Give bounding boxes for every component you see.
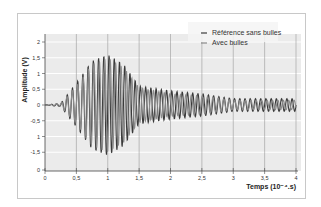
y-tick-label: 0,5 bbox=[32, 86, 40, 92]
legend-label-bubbles: Avec bulles bbox=[212, 39, 248, 46]
x-tick-label: 0 bbox=[43, 175, 46, 181]
y-tick-label: 0 bbox=[37, 102, 40, 108]
y-tick-label: 1,5 bbox=[32, 55, 40, 61]
y-tick-label: -1,5 bbox=[31, 149, 40, 155]
y-tick-label: 0 bbox=[37, 167, 40, 173]
x-tick-label: 0,5 bbox=[73, 175, 81, 181]
y-tick-label: 2 bbox=[37, 39, 40, 45]
y-tick-label: -0,5 bbox=[31, 118, 40, 124]
x-tick-label: 1 bbox=[106, 175, 109, 181]
x-axis-title: Temps (10⁻⁴.s) bbox=[246, 183, 296, 191]
x-tick-label: 4 bbox=[294, 175, 297, 181]
y-tick-label: 1 bbox=[37, 134, 40, 140]
y-axis-ticks: 21,510,50-0,51-1,50 bbox=[31, 39, 45, 173]
x-tick-label: 2 bbox=[169, 175, 172, 181]
line-chart: 21,510,50-0,51-1,50 00,511,522,533,54 Am… bbox=[0, 0, 321, 207]
y-tick-label: 1 bbox=[37, 71, 40, 77]
x-tick-label: 3 bbox=[232, 175, 235, 181]
legend-label-reference: Référence sans bulles bbox=[212, 29, 282, 36]
x-tick-label: 2,5 bbox=[198, 175, 206, 181]
x-tick-label: 1,5 bbox=[135, 175, 143, 181]
x-tick-label: 3,5 bbox=[261, 175, 269, 181]
y-axis-title: Amplitude (V) bbox=[21, 57, 29, 103]
